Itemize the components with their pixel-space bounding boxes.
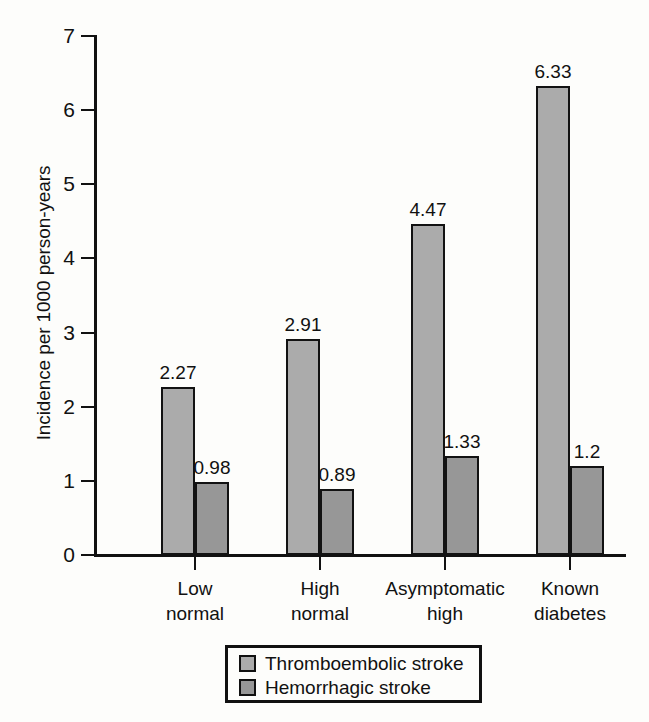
legend-swatch-icon bbox=[239, 679, 256, 696]
y-axis-tick bbox=[81, 480, 95, 482]
legend-label: Hemorrhagic stroke bbox=[265, 678, 431, 697]
bar bbox=[195, 482, 229, 555]
bar-value-label: 1.33 bbox=[427, 432, 497, 451]
y-axis-tick bbox=[81, 406, 95, 408]
bar-value-label: 0.98 bbox=[177, 458, 247, 477]
y-axis-tick-label: 1 bbox=[35, 470, 75, 491]
y-axis-tick bbox=[81, 257, 95, 259]
bar bbox=[445, 456, 479, 555]
y-axis-tick bbox=[81, 109, 95, 111]
bar-value-label: 1.2 bbox=[552, 442, 622, 461]
x-axis-tick bbox=[194, 557, 196, 570]
bar bbox=[570, 466, 604, 555]
y-axis-tick bbox=[81, 183, 95, 185]
bar bbox=[411, 224, 445, 555]
bar bbox=[320, 489, 354, 555]
legend-label: Thromboembolic stroke bbox=[265, 654, 464, 673]
y-axis-line bbox=[94, 35, 97, 557]
y-axis-tick-label: 2 bbox=[35, 396, 75, 417]
bar bbox=[536, 86, 570, 555]
y-axis-tick bbox=[81, 35, 95, 37]
bar-value-label: 6.33 bbox=[518, 62, 588, 81]
category-label-line: Known bbox=[480, 576, 649, 601]
bar-value-label: 4.47 bbox=[393, 200, 463, 219]
legend-item-thromboembolic-stroke: Thromboembolic stroke bbox=[239, 651, 464, 675]
bar-value-label: 2.27 bbox=[143, 363, 213, 382]
x-axis-tick bbox=[569, 557, 571, 570]
category-label-line: diabetes bbox=[480, 601, 649, 626]
x-axis-tick bbox=[444, 557, 446, 570]
x-axis-category-label: Knowndiabetes bbox=[480, 576, 649, 626]
y-axis-tick-label: 6 bbox=[35, 99, 75, 120]
legend-item-hemorrhagic-stroke: Hemorrhagic stroke bbox=[239, 675, 431, 699]
y-axis-tick bbox=[81, 332, 95, 334]
y-axis-tick-label: 0 bbox=[35, 544, 75, 565]
x-axis-tick bbox=[319, 557, 321, 570]
y-axis-tick-label: 4 bbox=[35, 247, 75, 268]
legend-swatch-icon bbox=[239, 655, 256, 672]
y-axis-tick bbox=[81, 554, 95, 556]
y-axis-tick-label: 3 bbox=[35, 322, 75, 343]
legend: Thromboembolic stroke Hemorrhagic stroke bbox=[225, 645, 482, 703]
y-axis-tick-label: 5 bbox=[35, 173, 75, 194]
bar bbox=[286, 339, 320, 555]
y-axis-tick-label: 7 bbox=[35, 25, 75, 46]
bar-value-label: 2.91 bbox=[268, 315, 338, 334]
bar-value-label: 0.89 bbox=[302, 465, 372, 484]
bar-chart-figure: Incidence per 1000 person-years 01234567… bbox=[0, 0, 649, 722]
